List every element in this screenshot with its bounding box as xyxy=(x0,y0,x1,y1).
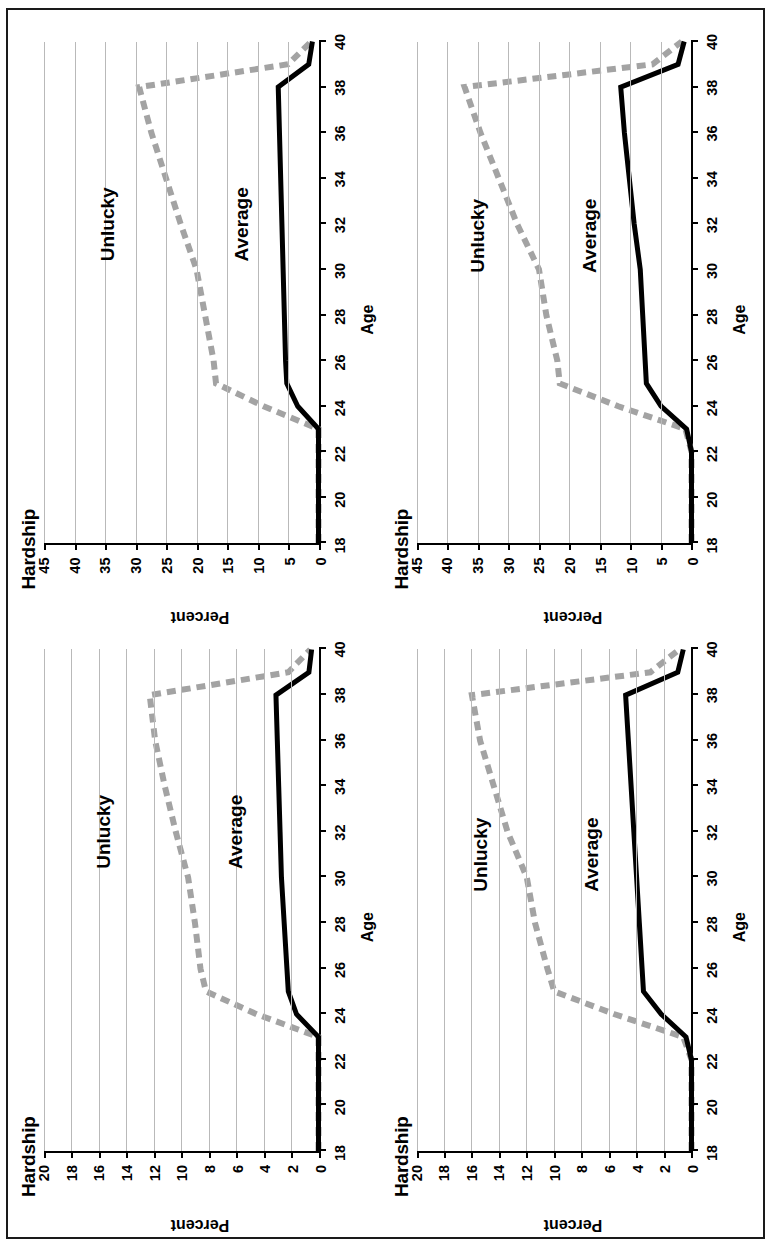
y-tick-label: 18 xyxy=(64,1165,80,1181)
x-axis-title: Age xyxy=(731,305,749,335)
y-tick-label: 15 xyxy=(593,558,609,574)
series-annotation-unlucky: Unlucky xyxy=(470,818,492,892)
y-gridline xyxy=(600,42,601,544)
x-tick xyxy=(691,268,698,270)
x-tick xyxy=(691,1149,698,1151)
y-gridline xyxy=(539,42,540,544)
figure-page: Hardship Percent UnluckyAverage 02468101… xyxy=(0,0,773,1247)
x-tick xyxy=(319,1149,326,1151)
x-tick-label: 38 xyxy=(332,80,348,96)
x-tick-label: 20 xyxy=(332,1099,348,1115)
y-tick-label: 40 xyxy=(439,558,455,574)
y-gridline xyxy=(166,42,167,544)
panel-title: Hardship xyxy=(18,1116,40,1197)
x-tick xyxy=(319,542,326,544)
series-annotation-unlucky: Unlucky xyxy=(97,187,119,261)
x-tick-label: 40 xyxy=(332,34,348,50)
x-tick xyxy=(691,648,698,650)
x-tick xyxy=(319,875,326,877)
y-tick-label: 16 xyxy=(91,1165,107,1181)
x-tick-label: 32 xyxy=(332,825,348,841)
y-tick xyxy=(236,1151,238,1158)
x-tick-label: 28 xyxy=(704,916,720,932)
y-gridline xyxy=(75,42,76,544)
y-tick xyxy=(636,1151,638,1158)
x-tick-label: 30 xyxy=(332,870,348,886)
y-tick xyxy=(691,544,693,551)
x-tick-label: 32 xyxy=(704,825,720,841)
y-tick xyxy=(447,544,449,551)
y-tick-label: 30 xyxy=(501,558,517,574)
y-tick xyxy=(227,544,229,551)
y-tick-label: 20 xyxy=(409,1165,425,1181)
x-tick-label: 34 xyxy=(704,779,720,795)
x-tick xyxy=(691,1103,698,1105)
y-gridline xyxy=(526,650,527,1152)
x-tick-label: 26 xyxy=(332,354,348,370)
x-axis-title: Age xyxy=(359,912,377,942)
series-annotation-average: Average xyxy=(225,795,247,869)
y-tick-label: 12 xyxy=(147,1165,163,1181)
x-axis-title: Age xyxy=(731,912,749,942)
y-tick xyxy=(661,544,663,551)
y-tick-label: 30 xyxy=(128,558,144,574)
y-tick-label: 15 xyxy=(220,558,236,574)
chart-panel-bottom-right: Hardship Percent UnluckyAverage 05101520… xyxy=(387,16,760,624)
y-tick xyxy=(664,1151,666,1158)
x-tick-label: 20 xyxy=(704,492,720,508)
series-line-average xyxy=(625,650,691,1152)
x-tick xyxy=(691,875,698,877)
x-tick xyxy=(691,450,698,452)
y-tick-label: 10 xyxy=(174,1165,190,1181)
series-annotation-unlucky: Unlucky xyxy=(93,795,115,869)
x-tick-label: 30 xyxy=(332,263,348,279)
y-tick xyxy=(554,1151,556,1158)
x-tick-label: 20 xyxy=(704,1099,720,1115)
x-tick xyxy=(691,693,698,695)
y-tick xyxy=(319,1151,321,1158)
y-gridline xyxy=(44,42,45,544)
x-tick xyxy=(319,496,326,498)
y-gridline xyxy=(197,42,198,544)
y-tick xyxy=(609,1151,611,1158)
y-gridline xyxy=(609,650,610,1152)
y-tick xyxy=(569,544,571,551)
y-tick-label: 35 xyxy=(470,558,486,574)
y-tick-label: 0 xyxy=(685,558,701,566)
x-tick-label: 22 xyxy=(704,1053,720,1069)
x-tick-label: 24 xyxy=(332,400,348,416)
y-tick xyxy=(471,1151,473,1158)
x-tick-label: 28 xyxy=(704,309,720,325)
x-tick xyxy=(319,405,326,407)
x-tick-label: 34 xyxy=(704,171,720,187)
y-tick xyxy=(258,544,260,551)
y-tick xyxy=(581,1151,583,1158)
x-tick xyxy=(319,131,326,133)
y-gridline xyxy=(581,650,582,1152)
x-tick-label: 34 xyxy=(332,779,348,795)
y-tick xyxy=(44,544,46,551)
y-gridline xyxy=(154,650,155,1152)
x-tick xyxy=(319,40,326,42)
y-tick xyxy=(417,544,419,551)
x-tick xyxy=(319,1058,326,1060)
y-tick-label: 0 xyxy=(685,1165,701,1173)
x-tick-label: 26 xyxy=(704,962,720,978)
y-gridline xyxy=(227,42,228,544)
plot-area: UnluckyAverage xyxy=(44,42,321,546)
x-tick-label: 24 xyxy=(704,400,720,416)
y-tick xyxy=(417,1151,419,1158)
series-annotation-average: Average xyxy=(579,199,601,273)
y-gridline xyxy=(630,42,631,544)
x-tick xyxy=(319,967,326,969)
y-gridline xyxy=(136,42,137,544)
x-tick xyxy=(319,222,326,224)
y-tick-label: 25 xyxy=(159,558,175,574)
y-tick xyxy=(166,544,168,551)
series-annotation-average: Average xyxy=(231,187,253,261)
x-tick xyxy=(319,1012,326,1014)
x-tick xyxy=(691,86,698,88)
y-tick xyxy=(288,544,290,551)
x-tick xyxy=(319,268,326,270)
y-tick-label: 5 xyxy=(654,558,670,566)
